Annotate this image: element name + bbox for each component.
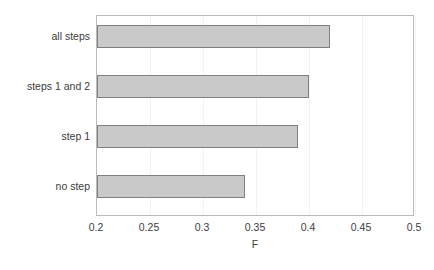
x-tick-0.45: 0.45 (331, 221, 391, 233)
bar-chart-figure: no stepstep 1steps 1 and 2all steps 0.20… (0, 0, 434, 270)
gridline (415, 16, 416, 215)
x-tick-0.2: 0.2 (66, 221, 126, 233)
bar-steps-1-and-2 (97, 75, 309, 98)
clipped-caption-text (40, 261, 420, 270)
category-label-no-step: no step (0, 180, 90, 192)
category-label-all-steps: all steps (0, 30, 90, 42)
x-tick-0.5: 0.5 (384, 221, 434, 233)
bar-step-1 (97, 125, 298, 148)
category-label-steps-1-and-2: steps 1 and 2 (0, 80, 90, 92)
x-tick-0.35: 0.35 (225, 221, 285, 233)
bar-no-step (97, 175, 245, 198)
x-tick-0.3: 0.3 (172, 221, 232, 233)
x-tick-0.25: 0.25 (119, 221, 179, 233)
bar-all-steps (97, 25, 330, 48)
bar-row (97, 25, 415, 48)
category-label-step-1: step 1 (0, 130, 90, 142)
bar-row (97, 75, 415, 98)
x-axis-title: F (96, 238, 414, 250)
plot-area (96, 15, 414, 216)
bar-row (97, 125, 415, 148)
x-tick-0.4: 0.4 (278, 221, 338, 233)
bar-row (97, 175, 415, 198)
